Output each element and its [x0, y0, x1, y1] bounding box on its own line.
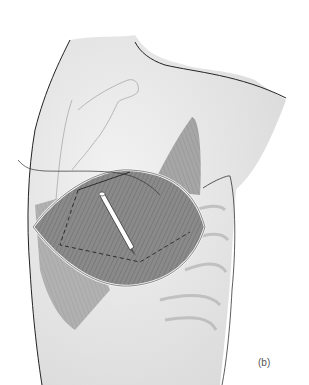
- figure-canvas: (b): [0, 0, 309, 385]
- panel-label: (b): [258, 357, 270, 368]
- anatomical-illustration: [0, 0, 309, 385]
